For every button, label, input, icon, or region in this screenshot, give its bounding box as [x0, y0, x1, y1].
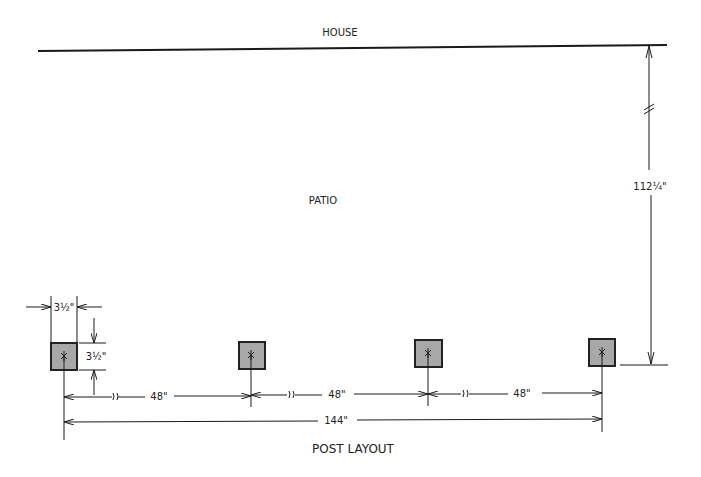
spacing-3-label: 48" — [513, 388, 530, 399]
post-3 — [415, 340, 442, 406]
overall-dimension: 144" — [64, 415, 602, 426]
diagram-title: POST LAYOUT — [312, 442, 395, 456]
post-depth-dimension: 3½" — [79, 318, 106, 395]
post-width-dimension: 3½" — [26, 296, 102, 342]
break-mark-icon — [463, 390, 468, 397]
house-to-posts-label: 112¼" — [633, 181, 666, 192]
post-4 — [589, 339, 615, 432]
post-2 — [239, 342, 265, 407]
house-to-posts-dimension: 112¼" — [620, 46, 668, 365]
post-width-label: 3½" — [54, 302, 75, 313]
post-layout-diagram: HOUSE PATIO 112¼" 3½" 3½" — [0, 0, 701, 477]
house-label: HOUSE — [322, 27, 357, 38]
spacing-1-label: 48" — [150, 391, 167, 402]
post-1 — [51, 343, 77, 440]
break-mark-icon — [289, 391, 294, 398]
spacing-2-label: 48" — [328, 389, 345, 400]
overall-label: 144" — [324, 415, 348, 426]
spacing-1-dimension: 48" — [64, 391, 251, 402]
break-mark-icon — [113, 393, 118, 400]
house-wall-line — [38, 45, 667, 51]
spacing-3-dimension: 48" — [428, 388, 602, 399]
post-depth-label: 3½" — [86, 351, 107, 362]
spacing-2-dimension: 48" — [251, 389, 428, 400]
patio-label: PATIO — [309, 195, 338, 206]
